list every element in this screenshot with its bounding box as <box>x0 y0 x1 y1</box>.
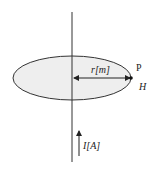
point-label: P <box>136 62 142 73</box>
current-label: I[A] <box>82 140 100 151</box>
diagram-canvas: r[m] P H I[A] <box>0 0 154 172</box>
radius-label: r[m] <box>91 64 110 75</box>
point-p <box>129 76 133 80</box>
field-label: H <box>138 81 147 92</box>
